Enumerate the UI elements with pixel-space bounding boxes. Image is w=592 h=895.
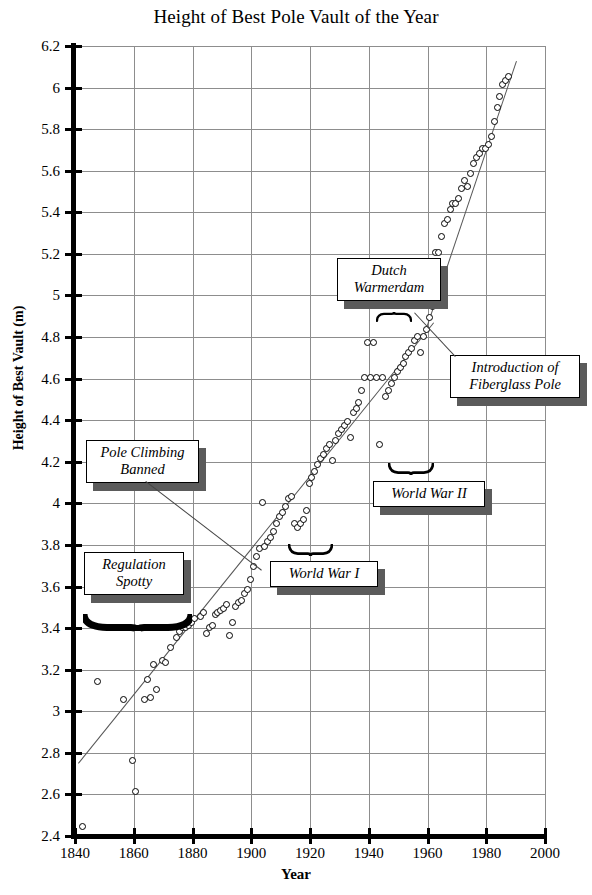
x-tick-label: 1960 <box>398 845 458 862</box>
y-tick-label: 3.6 <box>16 580 60 594</box>
y-tick <box>65 170 82 173</box>
y-tick-label: 3.2 <box>16 663 60 677</box>
y-tick <box>65 45 82 48</box>
y-tick-label: 3.4 <box>16 621 60 635</box>
x-tick-label: 1880 <box>163 845 223 862</box>
y-tick <box>65 211 82 214</box>
y-tick <box>65 586 82 589</box>
y-tick-label: 2.4 <box>16 829 60 843</box>
data-point <box>464 183 471 190</box>
x-tick <box>368 828 371 844</box>
y-tick-label: 2.6 <box>16 787 60 801</box>
y-tick <box>65 87 82 90</box>
x-tick-label: 1980 <box>456 845 516 862</box>
data-point <box>306 480 313 487</box>
y-tick <box>65 752 82 755</box>
callout-world-war-ii: World War II <box>373 481 485 507</box>
y-axis-line <box>71 43 76 839</box>
data-point <box>203 630 210 637</box>
data-point <box>132 788 139 795</box>
brace-regulation-spotty <box>83 614 192 633</box>
data-point <box>379 374 386 381</box>
brace-world-war-i <box>288 544 333 558</box>
x-tick <box>192 828 195 844</box>
data-point <box>353 405 360 412</box>
y-tick-label: 6.2 <box>16 39 60 53</box>
y-tick <box>65 336 82 339</box>
data-point <box>376 441 383 448</box>
callout-label: Regulation Spotty <box>84 552 184 595</box>
data-point <box>94 678 101 685</box>
y-tick <box>65 669 82 672</box>
data-point <box>447 206 454 213</box>
data-point <box>385 387 392 394</box>
data-point <box>491 118 498 125</box>
y-tick-label: 6 <box>16 81 60 95</box>
x-tick-label: 1860 <box>104 845 164 862</box>
gridline-vertical <box>545 46 546 836</box>
y-tick-label: 5.2 <box>16 247 60 261</box>
y-tick <box>65 502 82 505</box>
y-tick <box>65 253 82 256</box>
data-point <box>162 659 169 666</box>
data-point <box>238 597 245 604</box>
y-tick <box>65 378 82 381</box>
y-tick <box>65 627 82 630</box>
data-point <box>358 387 365 394</box>
data-point <box>420 333 427 340</box>
y-tick-label: 3.8 <box>16 538 60 552</box>
callout-dutch-warmerdam: Dutch Warmerdam <box>337 258 441 301</box>
x-tick <box>74 828 77 844</box>
gridline-vertical <box>251 46 252 836</box>
y-tick <box>65 419 82 422</box>
y-tick-label: 3 <box>16 704 60 718</box>
y-axis-title: Height of Best Vault (m) <box>11 263 27 493</box>
gridline-vertical <box>486 46 487 836</box>
data-point <box>494 104 501 111</box>
gridline-vertical <box>428 46 429 836</box>
callout-pole-climbing-banned: Pole Climbing Banned <box>86 440 199 483</box>
x-tick-label: 1840 <box>45 845 105 862</box>
data-point <box>426 314 433 321</box>
data-point <box>391 374 398 381</box>
data-point <box>273 520 280 527</box>
x-tick <box>133 828 136 844</box>
y-tick <box>65 128 82 131</box>
data-point <box>382 393 389 400</box>
data-point <box>300 516 307 523</box>
data-point <box>253 553 260 560</box>
data-point <box>332 437 339 444</box>
data-point <box>153 686 160 693</box>
data-point <box>150 661 157 668</box>
callout-fiberglass: Introduction of Fiberglass Pole <box>450 355 580 398</box>
brace-dutch-warmerdam <box>376 312 412 323</box>
y-tick-label: 5.6 <box>16 164 60 178</box>
x-axis-title: Year <box>0 866 592 883</box>
x-tick-label: 1920 <box>280 845 340 862</box>
gridline-vertical <box>310 46 311 836</box>
callout-label: World War I <box>270 561 378 587</box>
data-point <box>200 609 207 616</box>
gridline-vertical <box>369 46 370 836</box>
y-tick-label: 4 <box>16 496 60 510</box>
data-point <box>344 418 351 425</box>
data-point <box>129 757 136 764</box>
data-point <box>144 676 151 683</box>
data-point <box>444 216 451 223</box>
data-point <box>247 576 254 583</box>
chart-title: Height of Best Pole Vault of the Year <box>0 6 592 28</box>
x-tick <box>427 828 430 844</box>
x-tick-label: 2000 <box>515 845 575 862</box>
callout-label: Dutch Warmerdam <box>337 258 441 301</box>
data-point <box>244 586 251 593</box>
x-tick <box>309 828 312 844</box>
callout-regulation-spotty: Regulation Spotty <box>84 552 184 595</box>
y-tick-label: 5.8 <box>16 122 60 136</box>
data-point <box>209 622 216 629</box>
y-tick-label: 5.4 <box>16 205 60 219</box>
y-tick <box>65 461 82 464</box>
data-point <box>282 503 289 510</box>
data-point <box>303 507 310 514</box>
data-point <box>223 601 230 608</box>
data-point <box>259 499 266 506</box>
